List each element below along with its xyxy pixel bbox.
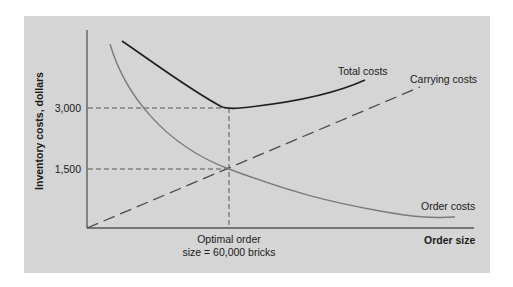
total-costs-label: Total costs [338,65,388,77]
optimal-order-label-line2: size = 60,000 bricks [169,246,289,258]
optimal-order-label-line1: Optimal order [169,233,289,245]
y-tick-1500: 1,500 [41,163,81,175]
total-costs-curve [122,41,365,108]
order-costs-curve [110,44,455,217]
y-axis-label: Inventory costs, dollars [33,72,45,190]
carrying-costs-label: Carrying costs [410,73,477,85]
y-tick-3000: 3,000 [41,102,81,114]
x-axis-label: Order size [424,234,475,246]
order-costs-label: Order costs [421,200,475,212]
